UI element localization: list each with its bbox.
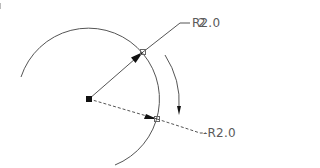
rotated-radius-label[interactable]: -R2.0 xyxy=(203,127,236,139)
rotation-arrowhead-icon xyxy=(177,106,181,115)
original-radius-text: R2.0 xyxy=(192,16,220,30)
rotated-leader-line[interactable] xyxy=(157,119,206,133)
overlapping-text: 2 xyxy=(198,17,206,29)
original-leader-line[interactable] xyxy=(143,23,190,52)
center-point-icon[interactable] xyxy=(86,96,92,102)
rotation-arrow-icon xyxy=(165,55,179,108)
rotated-radius-text: -R2.0 xyxy=(203,126,236,140)
original-radius-label[interactable]: R2.0 2 xyxy=(192,17,220,29)
